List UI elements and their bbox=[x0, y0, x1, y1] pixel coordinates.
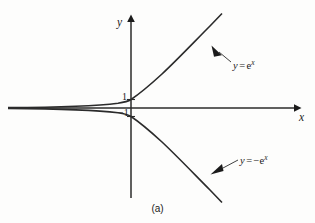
y-tick-label-positive-one: 1 bbox=[122, 92, 127, 102]
y-axis-label: y bbox=[117, 17, 122, 29]
exponential-functions-figure: y x 1 −1 y=ex y=−ex (a) bbox=[0, 0, 315, 223]
curve-label-equals: = bbox=[238, 60, 247, 71]
arrowhead-exponential-growth bbox=[212, 46, 222, 57]
y-tick-label-negative-one: −1 bbox=[118, 108, 129, 118]
curve-label-exponential-reflected: y=−ex bbox=[240, 156, 268, 167]
leader-line-exponential-reflected bbox=[223, 160, 238, 168]
y-axis-arrowhead bbox=[127, 15, 135, 23]
curve-label-exponential-growth: y=ex bbox=[233, 61, 255, 72]
plot-canvas bbox=[0, 0, 315, 223]
x-axis-label: x bbox=[299, 112, 304, 124]
curve-exponential-reflected bbox=[8, 108, 222, 202]
curve-label-variable: y bbox=[233, 60, 238, 71]
curve-label-exponent: x bbox=[264, 153, 267, 162]
curve-label-exponent: x bbox=[251, 58, 254, 67]
curve-label-variable: y bbox=[240, 155, 245, 166]
curve-exponential-growth bbox=[8, 14, 222, 108]
curve-label-equals: = bbox=[245, 155, 254, 166]
figure-caption: (a) bbox=[0, 203, 315, 214]
arrowhead-exponential-reflected bbox=[211, 164, 224, 175]
leader-line-exponential-growth bbox=[219, 52, 231, 62]
